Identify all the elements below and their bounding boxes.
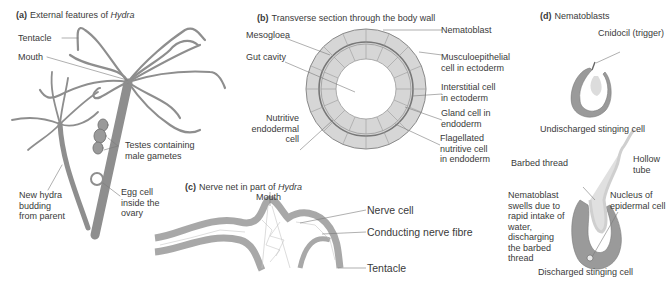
label-gland-cell: Gland cell in endoderm <box>441 108 491 129</box>
label-gut-cavity: Gut cavity <box>246 52 286 63</box>
label-conducting-nerve-fibre: Conducting nerve fibre <box>367 226 473 238</box>
label-discharged-stinging-cell: Discharged stinging cell <box>538 267 633 278</box>
hydra-diagram-drawings <box>0 0 671 288</box>
label-nerve-cell: Nerve cell <box>367 204 414 216</box>
label-barbed-thread: Barbed thread <box>511 158 568 169</box>
label-egg-cell: Egg cell inside the ovary <box>121 187 160 219</box>
panel-d-letter: (d) <box>540 11 552 21</box>
panel-c-title-italic: Hydra <box>278 182 302 192</box>
panel-b-letter: (b) <box>257 13 269 23</box>
panel-a-title-italic: Hydra <box>111 10 135 20</box>
panel-d-title-text: Nematoblasts <box>555 11 610 21</box>
label-nutritive-endodermal-cell: Nutritive endodermal cell <box>237 113 299 145</box>
label-tentacle: Tentacle <box>18 33 52 44</box>
label-flagellated-nutritive-cell: Flagellated nutritive cell in endoderm <box>440 133 490 165</box>
label-mesogloea: Mesogloea <box>246 30 290 41</box>
panel-a-title-text: External features of <box>30 10 111 20</box>
panel-c-title-text: Nerve net in part of <box>199 182 278 192</box>
label-mouth: Mouth <box>18 52 43 63</box>
label-nerve-net-tentacle: Tentacle <box>367 262 406 274</box>
label-nematoblast: Nematoblast <box>441 25 492 36</box>
label-budding: New hydra budding from parent <box>19 190 65 222</box>
transverse-section-drawing <box>285 29 442 150</box>
label-nematoblast-swells: Nematoblast swells due to rapid intake o… <box>508 190 565 264</box>
label-cnidocil: Cnidocil (trigger) <box>598 28 664 39</box>
label-testes: Testes containing male gametes <box>125 140 195 161</box>
label-nerve-net-mouth: Mouth <box>256 192 281 203</box>
label-hollow-tube: Hollow tube <box>633 154 660 175</box>
panel-d-title: (d)Nematoblasts <box>540 11 610 22</box>
label-nucleus-epidermal-cell: Nucleus of epidermal cell <box>610 190 666 211</box>
panel-a-letter: (a) <box>16 10 27 20</box>
nerve-net-drawing <box>155 192 366 270</box>
panel-a-title: (a)External features of Hydra <box>16 10 135 21</box>
label-interstitial-cell: Interstitial cell in ectoderm <box>441 82 496 103</box>
label-undischarged-stinging-cell: Undischarged stinging cell <box>540 124 645 135</box>
panel-b-title: (b)Transverse section through the body w… <box>257 13 435 24</box>
nematoblast-drawing <box>571 52 634 269</box>
panel-c-title: (c)Nerve net in part of Hydra <box>185 182 302 193</box>
label-musculoepithelial-cell: Musculoepithelial cell in ectoderm <box>441 52 510 73</box>
panel-b-title-text: Transverse section through the body wall <box>272 13 436 23</box>
panel-c-letter: (c) <box>185 182 196 192</box>
